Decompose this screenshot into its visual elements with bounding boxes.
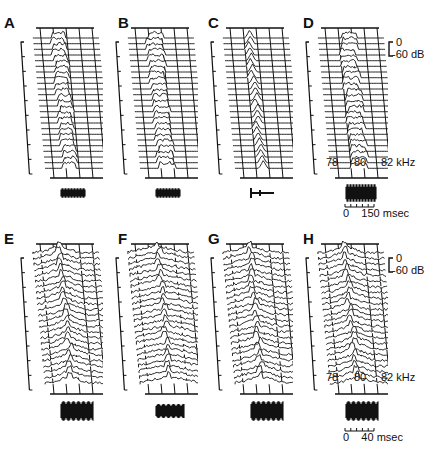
freq-tick-80-2: 80 <box>354 371 366 383</box>
panel-label-d: D <box>303 14 314 31</box>
panel-label-b: B <box>118 14 129 31</box>
freq-tick-82: 82 kHz <box>381 156 415 168</box>
panel-label-c: C <box>208 14 219 31</box>
waveform-e <box>56 396 116 426</box>
panel-label-g: G <box>208 230 220 247</box>
waterfall-spectrogram-f <box>113 234 198 409</box>
panel-label-e: E <box>4 230 14 247</box>
freq-tick-82-2: 82 kHz <box>381 371 415 383</box>
waterfall-spectrogram-c <box>208 18 293 193</box>
freq-tick-80: 80 <box>354 156 366 168</box>
amp-scale-top-2: 0 <box>396 252 402 264</box>
freq-tick-78: 78 <box>326 156 338 168</box>
amplitude-bracket-icon <box>386 40 396 60</box>
panel-label-f: F <box>118 230 127 247</box>
waveform-a <box>56 178 116 208</box>
waveform-b <box>151 178 211 208</box>
amp-scale-bottom-2: -60 dB <box>392 264 424 276</box>
freq-tick-78-2: 78 <box>326 371 338 383</box>
amplitude-bracket-icon <box>386 256 396 276</box>
time-scale-bar <box>344 203 376 209</box>
waterfall-spectrogram-h <box>303 234 388 409</box>
waterfall-spectrogram-e <box>18 234 103 409</box>
time-scale-bar <box>344 427 376 433</box>
waterfall-spectrogram-b <box>113 18 198 193</box>
waveform-f <box>151 396 211 426</box>
amp-scale-bottom: -60 dB <box>392 48 424 60</box>
waveform-g <box>246 396 306 426</box>
waterfall-spectrogram-g <box>208 234 293 409</box>
waveform-c <box>246 178 306 208</box>
amp-scale-top: 0 <box>396 36 402 48</box>
panel-label-h: H <box>303 230 314 247</box>
waveform-h <box>341 396 401 426</box>
waterfall-spectrogram-d <box>303 18 388 193</box>
waterfall-spectrogram-a <box>18 18 103 193</box>
panel-label-a: A <box>4 14 15 31</box>
